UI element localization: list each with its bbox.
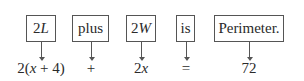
expression-2W: 2x bbox=[134, 60, 148, 77]
word-variable: L bbox=[41, 20, 49, 37]
word-box-is: is bbox=[176, 15, 195, 42]
down-arrow-icon bbox=[41, 42, 42, 58]
down-arrow-icon bbox=[141, 42, 142, 58]
expression-perimeter: 72 bbox=[242, 60, 257, 77]
expression-is: = bbox=[182, 60, 190, 77]
word-box-2W: 2W bbox=[126, 15, 156, 42]
expression-2L: 2(x + 4) bbox=[17, 60, 65, 77]
word-prefix: 2 bbox=[131, 20, 139, 37]
down-arrow-icon bbox=[186, 42, 187, 58]
expression-plus: + bbox=[87, 60, 95, 77]
word-box-2L: 2L bbox=[26, 15, 56, 42]
down-arrow-icon bbox=[249, 42, 250, 58]
word-variable: W bbox=[139, 20, 152, 37]
word-box-perimeter: Perimeter. bbox=[214, 15, 284, 42]
word-prefix: 2 bbox=[33, 20, 41, 37]
down-arrow-icon bbox=[91, 42, 92, 58]
word-box-plus: plus bbox=[72, 15, 109, 42]
